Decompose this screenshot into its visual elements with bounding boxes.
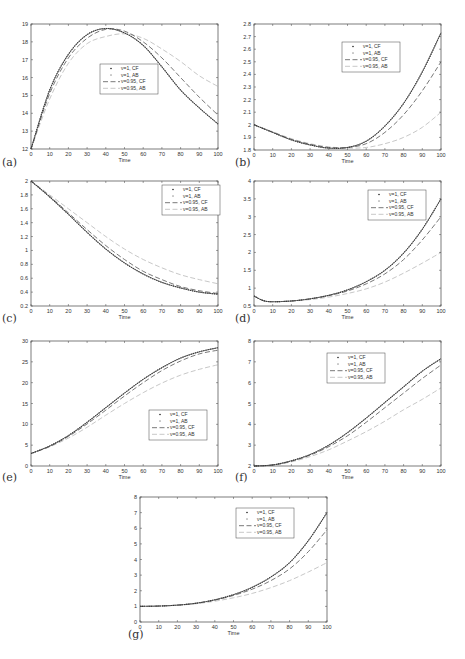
x-tick-label: 70 bbox=[382, 152, 388, 158]
y-tick-label: 30 bbox=[22, 338, 28, 344]
x-tick-label: 40 bbox=[326, 468, 332, 474]
y-tick-label: 2.7 bbox=[243, 34, 251, 40]
y-tick-label: 2 bbox=[248, 122, 251, 128]
x-axis-label: Time bbox=[118, 314, 130, 320]
legend-marker bbox=[159, 414, 161, 416]
y-tick-label: 2 bbox=[248, 249, 251, 255]
legend-marker bbox=[337, 363, 339, 365]
x-tick-label: 30 bbox=[307, 468, 313, 474]
legend-entry: ν=1, CF bbox=[363, 43, 381, 49]
y-tick-label: 19 bbox=[22, 21, 28, 27]
x-tick-label: 60 bbox=[363, 308, 369, 314]
x-tick-label: 60 bbox=[140, 151, 146, 157]
x-tick-label: 0 bbox=[29, 468, 32, 474]
legend-entry: ν=0.95, CF bbox=[183, 199, 208, 205]
x-tick-label: 0 bbox=[29, 151, 32, 157]
x-tick-label: 80 bbox=[178, 308, 184, 314]
legend: ν=1, CFν=1, ABν=0.95, CFν=0.95, AB bbox=[162, 185, 220, 215]
x-tick-label: 60 bbox=[140, 308, 146, 314]
x-tick-label: 0 bbox=[29, 308, 32, 314]
y-tick-label: 4 bbox=[248, 178, 251, 184]
legend-entry: ν=0.95, CF bbox=[170, 424, 195, 430]
legend-entry: ν=0.95, AB bbox=[363, 63, 388, 69]
x-tick-label: 20 bbox=[288, 308, 294, 314]
series-line bbox=[254, 388, 441, 466]
legend-entry: ν=0.95, AB bbox=[170, 431, 195, 437]
x-tick-label: 80 bbox=[178, 468, 184, 474]
series-line bbox=[140, 563, 327, 607]
x-tick-label: 100 bbox=[322, 624, 331, 630]
x-tick-label: 100 bbox=[436, 468, 445, 474]
x-tick-label: 70 bbox=[268, 624, 274, 630]
x-tick-label: 90 bbox=[419, 308, 425, 314]
y-tick-label: 1.6 bbox=[20, 206, 28, 212]
legend-entry: ν=1, CF bbox=[389, 191, 407, 197]
legend: ν=1, CFν=1, ABν=0.95, CFν=0.95, AB bbox=[368, 190, 426, 220]
x-tick-label: 80 bbox=[178, 151, 184, 157]
legend-entry: ν=0.95, CF bbox=[348, 367, 373, 373]
y-tick-label: 3 bbox=[248, 214, 251, 220]
y-tick-label: 15 bbox=[22, 401, 28, 407]
y-tick-label: 1 bbox=[134, 603, 137, 609]
y-tick-label: 16 bbox=[22, 75, 28, 81]
y-tick-label: 12 bbox=[22, 146, 28, 152]
legend-marker bbox=[110, 68, 112, 70]
legend-marker bbox=[246, 512, 248, 514]
x-tick-label: 20 bbox=[65, 308, 71, 314]
x-tick-label: 60 bbox=[249, 624, 255, 630]
legend-entry: ν=0.95, AB bbox=[257, 529, 282, 535]
legend-marker bbox=[159, 420, 161, 422]
x-tick-label: 60 bbox=[363, 152, 369, 158]
chart-panel-e: 0102030405060708090100051015202530Time(e… bbox=[2, 338, 223, 484]
x-tick-label: 10 bbox=[156, 624, 162, 630]
legend-entry: ν=1, CF bbox=[170, 411, 188, 417]
y-tick-label: 5 bbox=[25, 442, 28, 448]
x-tick-label: 20 bbox=[288, 468, 294, 474]
x-tick-label: 30 bbox=[307, 152, 313, 158]
y-tick-label: 10 bbox=[22, 421, 28, 427]
legend-marker bbox=[172, 189, 174, 191]
legend-marker bbox=[172, 195, 174, 197]
y-tick-label: 1 bbox=[248, 285, 251, 291]
y-tick-label: 2.6 bbox=[243, 46, 251, 52]
y-tick-label: 8 bbox=[134, 494, 137, 500]
x-tick-label: 40 bbox=[103, 308, 109, 314]
x-tick-label: 90 bbox=[305, 624, 311, 630]
x-tick-label: 40 bbox=[326, 308, 332, 314]
legend-entry: ν=0.95, AB bbox=[389, 211, 414, 217]
x-tick-label: 60 bbox=[363, 468, 369, 474]
x-tick-label: 30 bbox=[84, 151, 90, 157]
legend-entry: ν=1, AB bbox=[170, 418, 188, 424]
x-tick-label: 10 bbox=[47, 468, 53, 474]
x-axis-label: Time bbox=[341, 474, 353, 480]
x-tick-label: 40 bbox=[103, 468, 109, 474]
x-tick-label: 70 bbox=[159, 151, 165, 157]
x-tick-label: 70 bbox=[382, 308, 388, 314]
x-tick-label: 30 bbox=[84, 468, 90, 474]
x-tick-label: 100 bbox=[436, 152, 445, 158]
x-tick-label: 90 bbox=[196, 151, 202, 157]
y-tick-label: 20 bbox=[22, 380, 28, 386]
panel-label: (g) bbox=[128, 628, 144, 641]
legend-entry: ν=0.95, CF bbox=[121, 78, 146, 84]
x-tick-label: 20 bbox=[174, 624, 180, 630]
y-tick-label: 2.3 bbox=[243, 84, 251, 90]
x-axis-label: Time bbox=[118, 474, 130, 480]
y-tick-label: 2 bbox=[248, 463, 251, 469]
y-tick-label: 1.9 bbox=[243, 134, 251, 140]
x-tick-label: 40 bbox=[326, 152, 332, 158]
legend-entry: ν=0.95, AB bbox=[348, 374, 373, 380]
x-tick-label: 40 bbox=[212, 624, 218, 630]
y-tick-label: 18 bbox=[22, 39, 28, 45]
x-tick-label: 10 bbox=[270, 468, 276, 474]
panel-label: (e) bbox=[2, 471, 17, 484]
legend-marker bbox=[378, 194, 380, 196]
x-tick-label: 100 bbox=[213, 468, 222, 474]
y-tick-label: 0.5 bbox=[243, 303, 251, 309]
series-line bbox=[140, 513, 327, 607]
legend-entry: ν=1, CF bbox=[121, 65, 139, 71]
y-tick-label: 14 bbox=[22, 110, 28, 116]
legend-entry: ν=0.95, CF bbox=[257, 522, 282, 528]
panel-label: (f) bbox=[235, 471, 248, 484]
y-tick-label: 3 bbox=[134, 572, 137, 578]
